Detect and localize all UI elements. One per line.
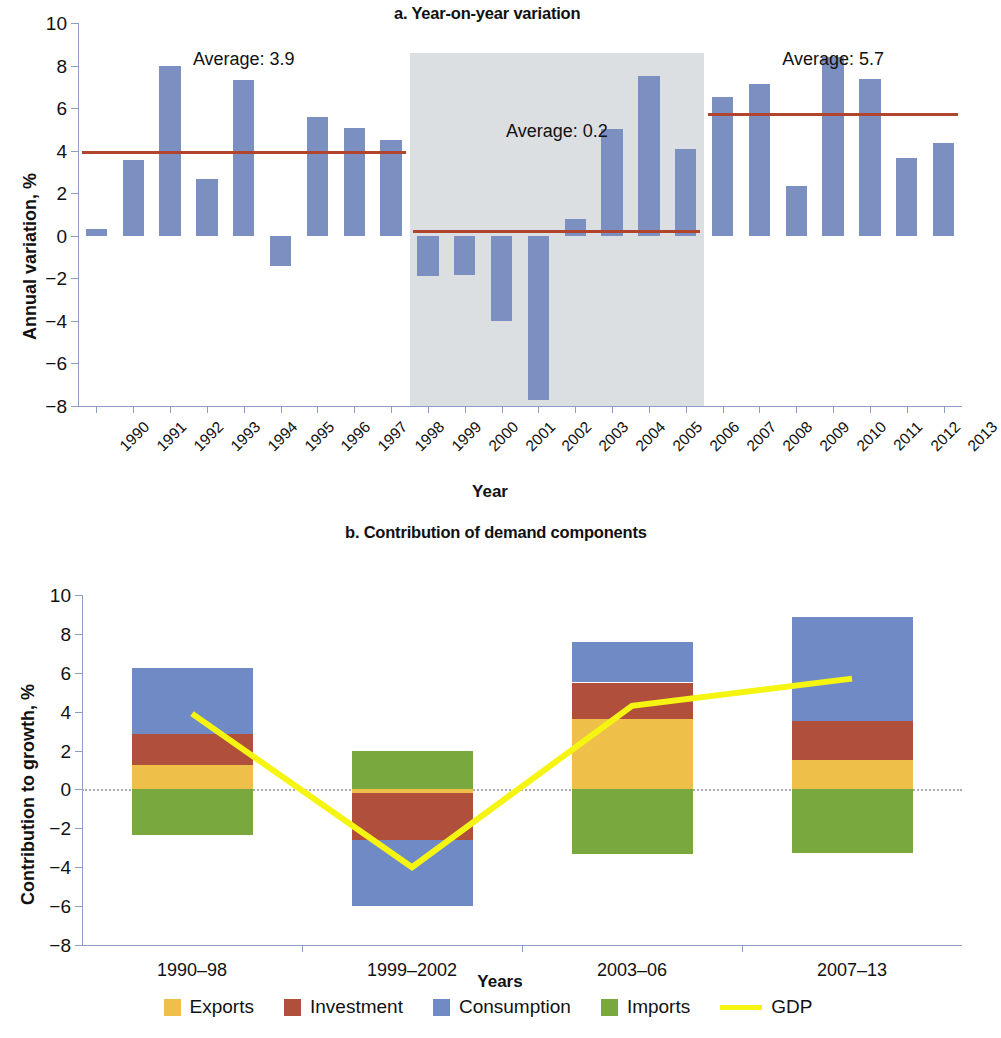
x-tick [907,406,908,413]
x-tick-label: 2003–06 [597,960,667,981]
x-tick [686,406,687,413]
y-tick-label: 6 [60,663,71,682]
bar [454,236,475,275]
y-tick-label: 6 [56,99,67,118]
legend-item-label: Consumption [459,996,571,1018]
x-tick-label: 2004 [632,418,669,455]
legend-item-investment[interactable]: Investment [284,996,403,1018]
panel-a-x-axis-line [78,406,962,407]
y-tick [75,673,82,674]
chart-legend: ExportsInvestmentConsumptionImportsGDP [0,996,976,1018]
bar [565,219,586,236]
panel-b-title: b. Contribution of demand components [345,523,647,542]
y-tick-label: −2 [45,269,67,288]
x-tick [742,945,743,952]
y-tick-label: −6 [49,897,71,916]
y-tick-label: 10 [46,14,67,33]
x-tick [354,406,355,413]
x-tick-label: 1992 [190,418,227,455]
panel-b-x-axis-title: Years [477,972,522,992]
average-line [708,113,958,116]
y-tick-label: −8 [45,397,67,416]
panel-b-y-axis-title: Contribution to growth, % [18,684,39,905]
legend-swatch-icon [601,999,618,1016]
x-tick-label: 1998 [411,418,448,455]
bar [638,76,659,236]
y-tick [71,321,78,322]
y-tick-label: 10 [50,586,71,605]
x-tick-label: 2000 [485,418,522,455]
x-tick [833,406,834,413]
bar [933,143,954,236]
x-tick [391,406,392,413]
legend-item-exports[interactable]: Exports [164,996,254,1018]
bar [491,236,512,321]
y-tick-label: 2 [60,741,71,760]
x-tick-label: 2008 [780,418,817,455]
average-annotation-label: Average: 5.7 [782,49,884,70]
bar [712,97,733,235]
y-tick [71,66,78,67]
y-tick [75,828,82,829]
panel-b-gdp-line [82,595,962,945]
y-tick-label: 4 [60,702,71,721]
legend-item-consumption[interactable]: Consumption [433,996,571,1018]
legend-item-label: GDP [771,996,812,1018]
x-tick-label: 2002 [559,418,596,455]
y-tick [71,108,78,109]
x-tick [944,406,945,413]
y-tick-label: 8 [60,624,71,643]
x-tick [723,406,724,413]
bar [528,236,549,400]
y-tick-label: −4 [45,311,67,330]
x-tick-label: 2012 [927,418,964,455]
y-tick [75,789,82,790]
bar [344,128,365,235]
average-annotation-label: Average: 3.9 [193,49,295,70]
bar [896,158,917,236]
bar [196,179,217,235]
y-tick-label: 8 [56,56,67,75]
x-tick [302,945,303,952]
legend-item-gdp[interactable]: GDP [720,996,812,1018]
panel-a-y-axis-title: Annual variation, % [20,173,41,340]
x-tick-label: 2006 [706,418,743,455]
legend-item-label: Exports [190,996,254,1018]
y-tick [71,193,78,194]
x-tick-label: 2013 [964,418,1001,455]
bar [307,117,328,236]
x-tick-label: 1999 [448,418,485,455]
x-tick [796,406,797,413]
y-tick [71,363,78,364]
bar [123,160,144,236]
y-tick [71,406,78,407]
legend-item-label: Investment [310,996,403,1018]
y-tick [75,595,82,596]
x-tick-label: 2007–13 [817,960,887,981]
y-tick-label: 2 [56,184,67,203]
x-tick-label: 1990 [117,418,154,455]
x-tick [649,406,650,413]
x-tick-label: 2007 [743,418,780,455]
panel-a-x-axis-title: Year [472,482,508,502]
y-tick-label: 4 [56,141,67,160]
average-line [413,230,700,233]
y-tick-label: 0 [60,780,71,799]
legend-item-label: Imports [627,996,690,1018]
x-tick [612,406,613,413]
x-tick-label: 1996 [338,418,375,455]
bar [786,186,807,236]
x-tick [244,406,245,413]
y-tick [71,278,78,279]
y-tick-label: −4 [49,858,71,877]
x-tick [759,406,760,413]
bar [601,129,622,235]
x-tick-label: 2011 [890,418,926,454]
x-tick [538,406,539,413]
average-line [82,151,406,154]
y-tick [75,751,82,752]
y-tick [71,151,78,152]
legend-item-imports[interactable]: Imports [601,996,690,1018]
y-tick-label: −8 [49,936,71,955]
